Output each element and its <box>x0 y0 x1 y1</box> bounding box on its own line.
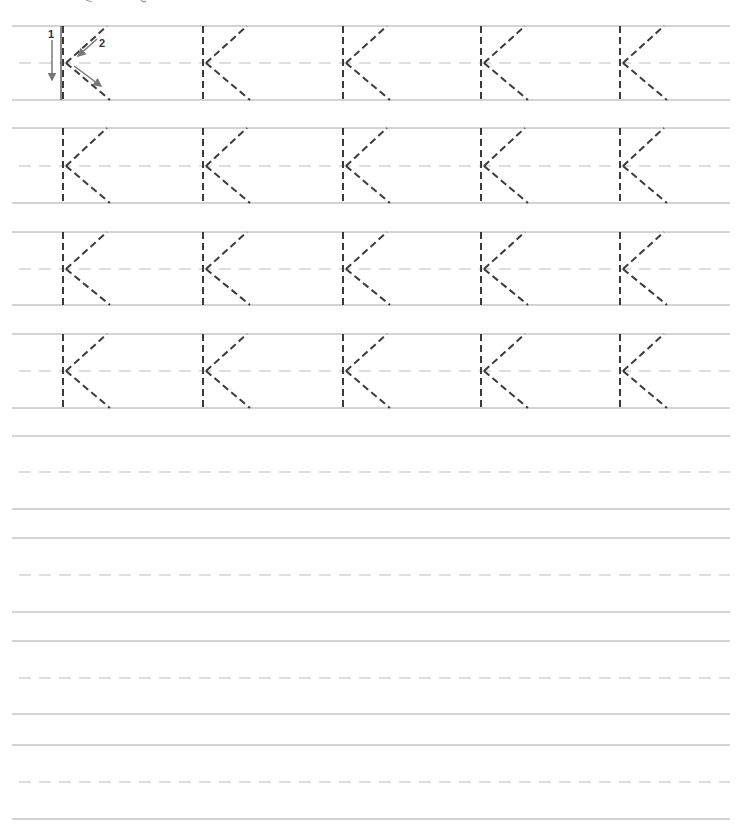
dashed-letter-k-upper-arm <box>623 232 664 269</box>
dashed-letter-k-upper-arm <box>206 232 247 269</box>
dashed-letter-k-lower-leg <box>346 371 390 408</box>
dashed-letter-k-upper-arm <box>206 128 247 166</box>
dashed-letter-k-upper-arm <box>66 128 107 166</box>
worksheet-canvas <box>0 0 738 840</box>
dashed-letter-k-lower-leg <box>623 166 667 203</box>
dashed-letter-k-upper-arm <box>346 232 387 269</box>
dashed-letter-k-lower-leg <box>484 269 528 305</box>
handwriting-worksheet: 1 2 <box>0 0 738 840</box>
dashed-letter-k-lower-leg <box>346 63 390 100</box>
stroke-arrow-2-down-right <box>74 66 101 86</box>
heading-fragment <box>141 0 146 2</box>
dashed-letter-k-upper-arm <box>484 334 525 371</box>
dashed-letter-k-lower-leg <box>623 269 667 305</box>
dashed-letter-k-upper-arm <box>66 232 107 269</box>
dashed-letter-k-lower-leg <box>484 63 528 100</box>
dashed-letter-k-upper-arm <box>346 128 387 166</box>
dashed-letter-k-lower-leg <box>66 166 110 203</box>
stroke-order-label-2: 2 <box>99 37 105 49</box>
dashed-letter-k-upper-arm <box>346 334 387 371</box>
dashed-letter-k-lower-leg <box>346 166 390 203</box>
dashed-letter-k-lower-leg <box>206 166 250 203</box>
dashed-letter-k-upper-arm <box>66 334 107 371</box>
dashed-letter-k-upper-arm <box>484 26 525 63</box>
dashed-letter-k-lower-leg <box>206 371 250 408</box>
heading-fragment <box>86 0 92 2</box>
dashed-letter-k-upper-arm <box>484 232 525 269</box>
dashed-letter-k-lower-leg <box>623 63 667 100</box>
dashed-letter-k-upper-arm <box>206 334 247 371</box>
stroke-arrow-2-down-left <box>78 39 97 56</box>
dashed-letter-k-upper-arm <box>206 26 247 63</box>
dashed-letter-k-lower-leg <box>66 63 110 100</box>
dashed-letter-k-upper-arm <box>623 26 664 63</box>
dashed-letter-k-lower-leg <box>206 63 250 100</box>
dashed-letter-k-upper-arm <box>484 128 525 166</box>
dashed-letter-k-lower-leg <box>623 371 667 408</box>
dashed-letter-k-upper-arm <box>623 128 664 166</box>
dashed-letter-k-upper-arm <box>346 26 387 63</box>
dashed-letter-k-lower-leg <box>484 371 528 408</box>
dashed-letter-k-lower-leg <box>66 269 110 305</box>
dashed-letter-k-lower-leg <box>66 371 110 408</box>
dashed-letter-k-upper-arm <box>623 334 664 371</box>
dashed-letter-k-lower-leg <box>346 269 390 305</box>
stroke-order-label-1: 1 <box>48 28 54 40</box>
dashed-letter-k-lower-leg <box>484 166 528 203</box>
dashed-letter-k-lower-leg <box>206 269 250 305</box>
